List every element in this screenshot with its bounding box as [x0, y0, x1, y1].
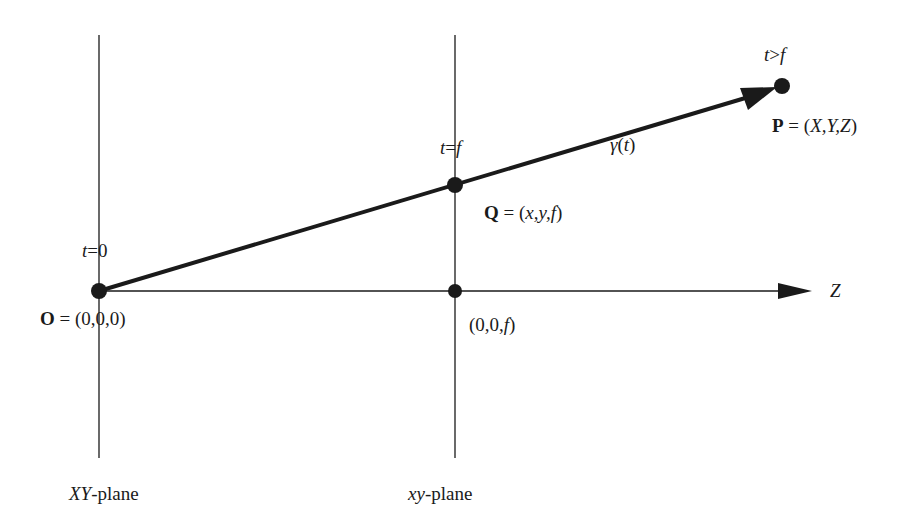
- point-focal-dot: [448, 284, 462, 298]
- label-origin-eq: O = (0,0,0): [40, 308, 126, 330]
- label-xy-image-plane: xy-plane: [407, 483, 472, 504]
- point-p-dot: [774, 78, 790, 94]
- label-t-greater-f: t>f: [764, 44, 788, 65]
- point-origin-dot: [91, 283, 107, 299]
- ray-arrowhead-icon: [740, 87, 777, 110]
- label-q-eq: Q = (x,y,f): [484, 202, 562, 224]
- ray-gamma-line: [99, 96, 752, 291]
- label-xy-world-plane: XY-plane: [68, 483, 139, 504]
- label-focal-point: (0,0,f): [469, 314, 515, 336]
- label-t-zero: t=0: [82, 240, 108, 261]
- point-q-dot: [447, 177, 463, 193]
- label-ray-gamma: γ(t): [610, 134, 635, 156]
- label-z-axis: Z: [830, 280, 841, 301]
- label-t-equals-f: t=f: [440, 137, 464, 158]
- z-axis-arrowhead-icon: [778, 283, 812, 299]
- pinhole-projection-diagram: t=0 t=f t>f O = (0,0,0) Q = (x,y,f) P = …: [0, 0, 922, 531]
- label-p-eq: P = (X,Y,Z): [772, 115, 857, 137]
